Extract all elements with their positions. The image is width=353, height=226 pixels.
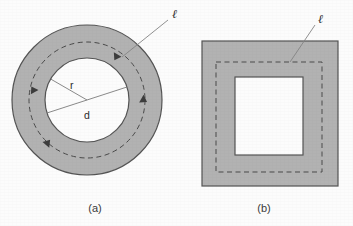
panel-a-annulus: r d ℓ [12,7,177,175]
panel-a-path-symbol-label: ℓ [172,7,177,21]
diameter-label: d [84,109,90,121]
caption-a: (a) [88,202,101,214]
panel-b-path-symbol-label: ℓ [318,12,323,26]
panel-b-square-annulus: ℓ [202,12,338,186]
radius-label: r [70,79,74,91]
caption-b: (b) [257,202,270,214]
figure-canvas: r d ℓ ℓ (a) (b) [0,0,353,226]
square-inner-hole [235,77,303,155]
figure-illustration: r d ℓ ℓ (a) (b) [0,0,353,226]
